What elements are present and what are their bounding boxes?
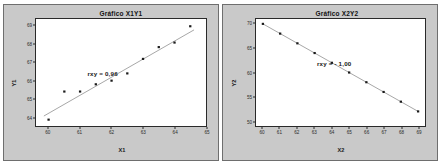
data-point xyxy=(417,110,419,112)
x-tick-mark xyxy=(349,127,350,129)
data-point xyxy=(262,23,264,25)
y-tick-mark xyxy=(33,117,35,118)
x-tick-label: 62 xyxy=(294,130,299,135)
x-tick-mark xyxy=(143,127,144,129)
data-point xyxy=(189,25,191,27)
x-tick-label: 63 xyxy=(141,130,146,135)
data-point xyxy=(47,119,49,121)
x-tick-label: 67 xyxy=(382,130,387,135)
x-axis-title: X1 xyxy=(28,147,216,153)
x-axis-title: X2 xyxy=(247,147,435,153)
data-point xyxy=(400,101,402,103)
y-tick-mark xyxy=(33,80,35,81)
y-tick-label: 70 xyxy=(241,20,252,25)
scatter-plot-svg xyxy=(256,19,425,126)
y-axis-title: Y1 xyxy=(11,79,17,86)
chart-panel-inner: Gráfico X2Y2 Y2 X2 606162636465666768695… xyxy=(225,7,435,158)
x-tick-label: 65 xyxy=(204,130,209,135)
charts-container: Gráfico X1Y1 Y1 X1 606162636465646566676… xyxy=(0,0,441,168)
x-tick-mark xyxy=(79,127,80,129)
y-tick-label: 60 xyxy=(241,70,252,75)
chart-title: Gráfico X2Y2 xyxy=(239,10,435,18)
y-tick-mark xyxy=(33,99,35,100)
x-tick-mark xyxy=(207,127,208,129)
y-tick-label: 50 xyxy=(241,120,252,125)
x-tick-label: 69 xyxy=(416,130,421,135)
data-point xyxy=(158,46,160,48)
y-tick-mark xyxy=(33,43,35,44)
y-tick-label: 67 xyxy=(21,60,32,65)
plot-area xyxy=(255,18,426,127)
y-tick-label: 66 xyxy=(21,78,32,83)
data-point xyxy=(382,91,384,93)
y-tick-label: 65 xyxy=(241,45,252,50)
x-tick-mark xyxy=(384,127,385,129)
x-tick-label: 62 xyxy=(109,130,114,135)
data-point xyxy=(126,72,128,74)
chart-panel-x2y2: Gráfico X2Y2 Y2 X2 606162636465666768695… xyxy=(222,4,438,161)
y-tick-mark xyxy=(253,72,255,73)
data-point xyxy=(63,90,65,92)
chart-panel-inner: Gráfico X1Y1 Y1 X1 606162636465646566676… xyxy=(6,7,216,158)
x-tick-mark xyxy=(331,127,332,129)
y-tick-label: 69 xyxy=(21,23,32,28)
data-point xyxy=(348,71,350,73)
x-tick-mark xyxy=(175,127,176,129)
chart-panel-x1y1: Gráfico X1Y1 Y1 X1 606162636465646566676… xyxy=(3,4,219,161)
data-point xyxy=(365,81,367,83)
x-tick-mark xyxy=(111,127,112,129)
x-tick-label: 66 xyxy=(364,130,369,135)
trend-line xyxy=(263,24,418,112)
data-point xyxy=(95,83,97,85)
y-tick-mark xyxy=(33,62,35,63)
data-point xyxy=(296,42,298,44)
x-tick-label: 64 xyxy=(173,130,178,135)
plot-area xyxy=(35,18,207,127)
chart-title: Gráfico X1Y1 xyxy=(26,10,216,18)
x-tick-label: 61 xyxy=(277,130,282,135)
y-tick-label: 65 xyxy=(21,97,32,102)
data-point xyxy=(313,52,315,54)
x-tick-label: 63 xyxy=(312,130,317,135)
y-tick-mark xyxy=(253,97,255,98)
x-tick-mark xyxy=(366,127,367,129)
x-tick-label: 65 xyxy=(347,130,352,135)
y-tick-label: 55 xyxy=(241,95,252,100)
correlation-annotation: rxy = - 1,00 xyxy=(317,60,352,67)
y-tick-mark xyxy=(253,122,255,123)
x-tick-label: 60 xyxy=(259,130,264,135)
data-point xyxy=(79,90,81,92)
x-tick-mark xyxy=(296,127,297,129)
x-tick-label: 64 xyxy=(329,130,334,135)
x-tick-mark xyxy=(47,127,48,129)
trend-line xyxy=(44,30,194,116)
x-tick-label: 61 xyxy=(77,130,82,135)
y-tick-label: 64 xyxy=(21,115,32,120)
x-tick-mark xyxy=(314,127,315,129)
y-tick-mark xyxy=(253,22,255,23)
y-tick-label: 68 xyxy=(21,41,32,46)
x-tick-mark xyxy=(401,127,402,129)
data-points xyxy=(47,25,191,121)
data-point xyxy=(142,58,144,60)
x-tick-mark xyxy=(279,127,280,129)
x-tick-mark xyxy=(419,127,420,129)
data-point xyxy=(173,42,175,44)
y-tick-mark xyxy=(253,47,255,48)
y-axis-title: Y2 xyxy=(231,79,237,86)
scatter-plot-svg xyxy=(36,19,206,126)
x-tick-label: 60 xyxy=(45,130,50,135)
data-point xyxy=(110,80,112,82)
data-point xyxy=(279,33,281,35)
x-tick-mark xyxy=(261,127,262,129)
correlation-annotation: rxy = 0,96 xyxy=(87,70,117,77)
x-tick-label: 68 xyxy=(399,130,404,135)
y-tick-mark xyxy=(33,25,35,26)
